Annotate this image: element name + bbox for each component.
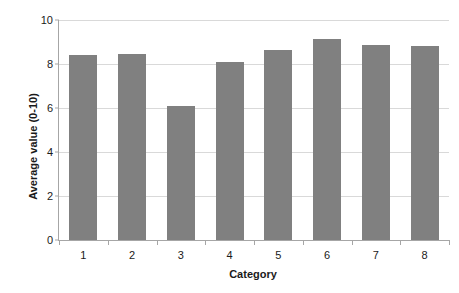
x-tick-mark	[400, 240, 401, 245]
y-tick-label: 4	[47, 146, 53, 158]
bar	[167, 106, 195, 240]
y-tick-label: 8	[47, 58, 53, 70]
x-axis-title: Category	[58, 268, 448, 280]
y-tick-label: 0	[47, 234, 53, 246]
x-tick-label: 8	[422, 249, 428, 261]
bars-layer	[59, 20, 449, 240]
bar	[411, 46, 439, 240]
x-tick-label: 5	[275, 249, 281, 261]
x-tick-mark	[254, 240, 255, 245]
x-tick-mark	[352, 240, 353, 245]
x-tick-label: 4	[227, 249, 233, 261]
y-tick-label: 6	[47, 102, 53, 114]
x-tick-label: 3	[178, 249, 184, 261]
plot-area: 0246810 12345678	[58, 20, 449, 241]
x-tick-label: 1	[80, 249, 86, 261]
bar	[362, 45, 390, 240]
bar	[69, 55, 97, 240]
x-tick-mark	[59, 240, 60, 245]
bar-slot	[205, 20, 254, 240]
x-tick-label: 2	[129, 249, 135, 261]
bar-slot	[352, 20, 401, 240]
x-tick-label: 7	[373, 249, 379, 261]
x-tick-label: 6	[324, 249, 330, 261]
bar-slot	[157, 20, 206, 240]
bar	[264, 50, 292, 240]
x-tick-mark	[449, 240, 450, 245]
bar-slot	[108, 20, 157, 240]
bar-slot	[303, 20, 352, 240]
y-tick-label: 2	[47, 190, 53, 202]
x-tick-mark	[205, 240, 206, 245]
bar-slot	[59, 20, 108, 240]
x-tick-mark	[303, 240, 304, 245]
bar-slot	[254, 20, 303, 240]
y-axis-title: Average value (0-10)	[22, 0, 44, 293]
bar	[313, 39, 341, 240]
y-tick-label: 10	[41, 14, 53, 26]
bar	[118, 54, 146, 240]
bar-chart: Average value (0-10) 0246810 12345678 Ca…	[0, 0, 459, 293]
bar	[216, 62, 244, 240]
x-tick-mark	[108, 240, 109, 245]
bar-slot	[400, 20, 449, 240]
x-tick-mark	[157, 240, 158, 245]
